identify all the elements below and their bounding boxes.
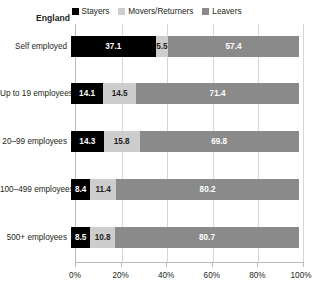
bar-segment-leavers: 57.4 bbox=[168, 36, 299, 57]
x-axis-tick bbox=[75, 262, 76, 267]
table-row: 100–499 employees 8.4 11.4 80.2 bbox=[0, 179, 313, 200]
region-label: England bbox=[0, 13, 70, 23]
table-row: Up to 19 employees 14.1 14.5 71.4 bbox=[0, 83, 313, 104]
category-label: Up to 19 employees bbox=[0, 89, 71, 98]
bar-segment-stayers: 14.3 bbox=[71, 131, 104, 152]
stacked-bar: 8.4 11.4 80.2 bbox=[71, 179, 299, 200]
square-swatch-icon bbox=[72, 8, 79, 15]
bar-segment-leavers: 71.4 bbox=[136, 83, 299, 104]
x-axis-tick bbox=[257, 262, 258, 267]
category-label: 500+ employees bbox=[0, 233, 71, 242]
stacked-bar: 14.3 15.8 69.8 bbox=[71, 131, 299, 152]
bar-segment-stayers: 37.1 bbox=[71, 36, 156, 57]
x-axis-labels: 0% 20% 40% 60% 80% 100% bbox=[0, 271, 313, 283]
square-swatch-icon bbox=[202, 8, 209, 15]
bar-segment-stayers: 8.5 bbox=[71, 227, 90, 248]
category-label: Self employed bbox=[0, 42, 71, 51]
x-axis-tick-label: 80% bbox=[249, 271, 265, 280]
stacked-bar: 37.1 5.5 57.4 bbox=[71, 36, 299, 57]
x-axis-tick bbox=[166, 262, 167, 267]
x-axis-line bbox=[75, 262, 303, 263]
legend-label: Stayers bbox=[82, 8, 110, 16]
bar-rows: Self employed 37.1 5.5 57.4 Up to 19 emp… bbox=[0, 24, 313, 262]
bar-segment-stayers: 8.4 bbox=[71, 179, 90, 200]
x-axis-tick bbox=[303, 262, 304, 267]
x-axis-tick-label: 60% bbox=[204, 271, 220, 280]
square-swatch-icon bbox=[118, 8, 125, 15]
bar-segment-stayers: 14.1 bbox=[71, 83, 103, 104]
x-axis-tick bbox=[121, 262, 122, 267]
stacked-bar: 14.1 14.5 71.4 bbox=[71, 83, 299, 104]
bar-segment-leavers: 80.2 bbox=[116, 179, 299, 200]
x-axis-tick-label: 20% bbox=[112, 271, 128, 280]
stacked-bar: 8.5 10.8 80.7 bbox=[71, 227, 299, 248]
bar-segment-movers-returners: 11.4 bbox=[90, 179, 116, 200]
legend-label: Leavers bbox=[212, 8, 241, 16]
table-row: 500+ employees 8.5 10.8 80.7 bbox=[0, 227, 313, 248]
legend-item-stayers: Stayers bbox=[72, 8, 110, 16]
bar-segment-movers-returners: 15.8 bbox=[104, 131, 140, 152]
table-row: 20–99 employees 14.3 15.8 69.8 bbox=[0, 131, 313, 152]
bar-segment-movers-returners: 10.8 bbox=[90, 227, 115, 248]
category-label: 20–99 employees bbox=[0, 137, 71, 146]
x-axis-tick bbox=[212, 262, 213, 267]
bar-segment-movers-returners: 14.5 bbox=[103, 83, 136, 104]
legend-item-movers-returners: Movers/Returners bbox=[118, 8, 193, 16]
x-axis-tick-label: 0% bbox=[69, 271, 81, 280]
bar-segment-leavers: 69.8 bbox=[140, 131, 299, 152]
x-axis-tick-label: 40% bbox=[158, 271, 174, 280]
category-label: 100–499 employees bbox=[0, 185, 71, 194]
bar-segment-leavers: 80.7 bbox=[115, 227, 299, 248]
legend-label: Movers/Returners bbox=[128, 8, 193, 16]
table-row: Self employed 37.1 5.5 57.4 bbox=[0, 36, 313, 57]
legend-item-leavers: Leavers bbox=[202, 8, 241, 16]
bar-segment-movers-returners: 5.5 bbox=[156, 36, 169, 57]
x-axis-tick-label: 100% bbox=[291, 271, 312, 280]
